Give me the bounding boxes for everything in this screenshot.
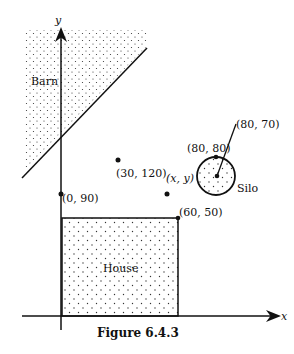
point-x-y (165, 192, 170, 197)
label-80-70: (80, 70) (236, 118, 280, 131)
point-80-80 (214, 155, 219, 160)
label-x-y: (x, y) (166, 172, 194, 185)
figure-diagram: y x Barn (0, 90) (30, 120) (x, y) (60, 5… (0, 0, 294, 354)
label-0-90: (0, 90) (62, 192, 99, 205)
label-80-80: (80, 80) (187, 142, 231, 155)
x-axis-label: x (281, 310, 288, 323)
label-30-120: (30, 120) (116, 167, 167, 180)
point-30-120 (116, 158, 121, 163)
house-label: House (103, 262, 138, 275)
label-60-50: (60, 50) (179, 206, 223, 219)
barn-label: Barn (31, 75, 58, 88)
y-axis-label: y (54, 14, 62, 27)
barn-region (25, 30, 147, 169)
point-80-70 (215, 174, 220, 179)
silo-label: Silo (237, 182, 259, 195)
figure-caption: Figure 6.4.3 (97, 326, 179, 340)
